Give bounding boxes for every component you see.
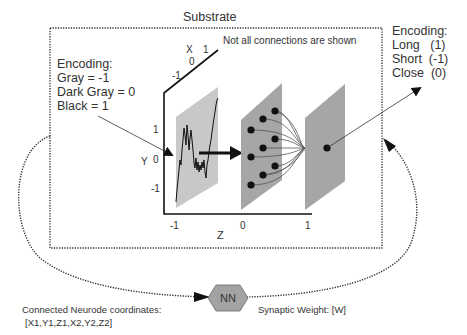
weight-return-arrow-head: [383, 138, 396, 152]
y-tick-0: 0: [153, 154, 159, 165]
nn-node: NN: [208, 285, 248, 311]
x-tick-0: 0: [189, 56, 195, 67]
output-encoding-legend: Encoding: Long (1) Short (-1) Close (0): [392, 24, 448, 80]
hidden-neurode: [247, 126, 254, 133]
synaptic-weight-label: Synaptic Weight: [W]: [258, 304, 346, 315]
y-tick-neg1: -1: [151, 183, 160, 194]
neurode-coordinates-label: Connected Neurode coordinates:: [22, 304, 161, 315]
nn-input-arrow-head: [194, 292, 210, 302]
x-tick-1: 1: [203, 44, 209, 55]
output-encoding-short: Short (-1): [392, 52, 448, 66]
y-tick-1: 1: [153, 124, 159, 135]
input-encoding-gray: Gray = -1: [57, 71, 109, 85]
output-encoding-close: Close (0): [392, 66, 446, 80]
z-axis-label: Z: [217, 229, 224, 241]
output-encoding-heading: Encoding:: [392, 24, 448, 38]
hidden-neurode: [247, 153, 254, 160]
input-layer-panel: [176, 87, 218, 208]
x-tick-neg1: -1: [172, 70, 181, 81]
hidden-neurode: [271, 162, 278, 169]
hidden-neurode: [259, 171, 266, 178]
hidden-neurode: [247, 181, 254, 188]
hidden-neurode: [271, 135, 278, 142]
neurode-coordinates-format: [X1,Y1,Z1,X2,Y2,Z2]: [25, 317, 112, 328]
output-layer-panel: [305, 84, 345, 210]
input-encoding-legend: Encoding: Gray = -1 Dark Gray = 0 Black …: [57, 57, 135, 113]
hidden-neurode: [259, 115, 266, 122]
substrate-title: Substrate: [183, 10, 237, 24]
hidden-neurode: [271, 107, 278, 114]
hidden-neurode: [259, 144, 266, 151]
connections-note: Not all connections are shown: [223, 35, 356, 46]
x-axis-label: X: [186, 44, 193, 55]
input-encoding-pointer-arrow: [98, 116, 172, 155]
z-tick-1: 1: [305, 220, 311, 231]
input-encoding-dark-gray: Dark Gray = 0: [57, 85, 135, 99]
hyperneat-substrate-diagram: Substrate Not all connections are shown …: [0, 0, 467, 335]
y-axis-label: Y: [141, 156, 148, 167]
z-tick-0: 0: [240, 220, 246, 231]
output-encoding-long: Long (1): [392, 38, 446, 52]
z-tick-neg1: -1: [170, 220, 179, 231]
input-encoding-heading: Encoding:: [57, 57, 113, 71]
nn-node-label: NN: [220, 292, 236, 304]
input-encoding-black: Black = 1: [57, 99, 109, 113]
